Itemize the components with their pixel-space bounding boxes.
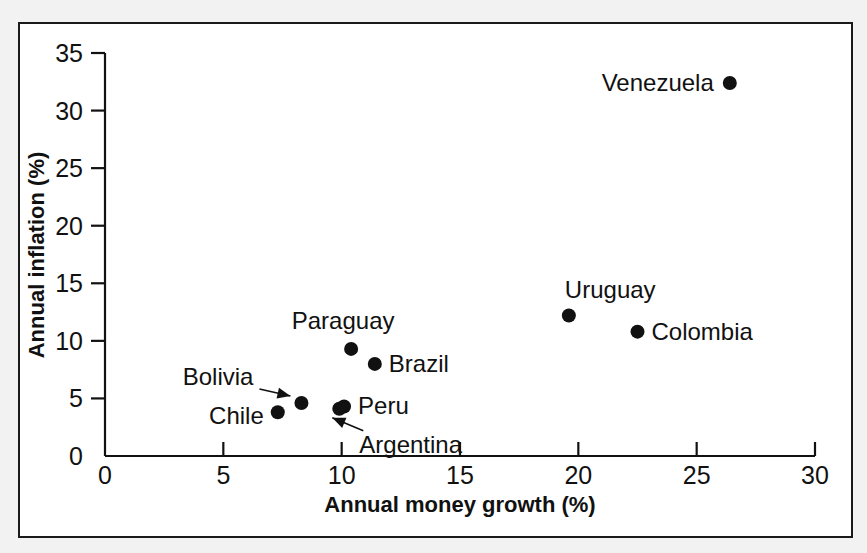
y-tick-label: 0 bbox=[69, 442, 83, 470]
y-tick-label: 25 bbox=[55, 154, 83, 182]
scatter-plot-page: 05101520253035 051015202530 VenezuelaUru… bbox=[0, 0, 867, 553]
data-point-uruguay[interactable] bbox=[562, 309, 576, 323]
y-tick-label: 20 bbox=[55, 212, 83, 240]
y-tick-label: 15 bbox=[55, 269, 83, 297]
data-point-bolivia[interactable] bbox=[294, 396, 308, 410]
data-point-colombia[interactable] bbox=[631, 325, 645, 339]
data-point-brazil[interactable] bbox=[368, 357, 382, 371]
scatter-chart: 05101520253035 051015202530 VenezuelaUru… bbox=[0, 0, 867, 553]
point-label-bolivia: Bolivia bbox=[183, 363, 254, 390]
point-label-uruguay: Uruguay bbox=[565, 276, 656, 303]
y-tick-label: 5 bbox=[69, 384, 83, 412]
point-label-paraguay: Paraguay bbox=[292, 307, 395, 334]
x-tick-label: 15 bbox=[446, 461, 474, 489]
x-tick-label: 20 bbox=[564, 461, 592, 489]
x-axis-title: Annual money growth (%) bbox=[324, 492, 595, 517]
y-tick-label: 30 bbox=[55, 97, 83, 125]
point-label-venezuela: Venezuela bbox=[602, 69, 715, 96]
data-point-argentina[interactable] bbox=[332, 402, 346, 416]
x-tick-label: 0 bbox=[98, 461, 112, 489]
data-point-venezuela[interactable] bbox=[723, 76, 737, 90]
x-tick-label: 25 bbox=[683, 461, 711, 489]
point-label-peru: Peru bbox=[358, 392, 409, 419]
y-axis-title: Annual inflation (%) bbox=[24, 152, 49, 359]
data-point-paraguay[interactable] bbox=[344, 342, 358, 356]
point-label-colombia: Colombia bbox=[652, 318, 754, 345]
y-axis-ticks: 05101520253035 bbox=[55, 39, 105, 470]
x-axis-ticks: 051015202530 bbox=[98, 442, 829, 489]
point-label-chile: Chile bbox=[209, 402, 264, 429]
point-label-brazil: Brazil bbox=[389, 350, 449, 377]
x-tick-label: 10 bbox=[328, 461, 356, 489]
point-label-argentina: Argentina bbox=[359, 431, 462, 458]
data-points-layer: VenezuelaUruguayColombiaParaguayBrazilBo… bbox=[183, 69, 754, 458]
data-point-chile[interactable] bbox=[271, 405, 285, 419]
leader-arrowhead-bolivia bbox=[277, 388, 291, 399]
y-tick-label: 35 bbox=[55, 39, 83, 67]
x-tick-label: 30 bbox=[801, 461, 829, 489]
y-tick-label: 10 bbox=[55, 327, 83, 355]
x-tick-label: 5 bbox=[216, 461, 230, 489]
